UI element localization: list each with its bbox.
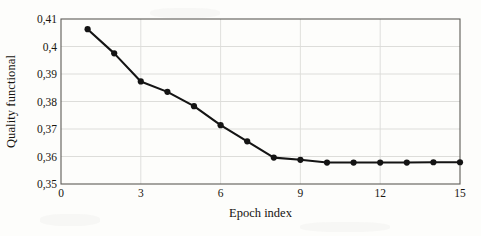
data-point-marker xyxy=(404,159,410,165)
chart-figure: Quality functional 0,350,360,370,380,390… xyxy=(0,0,481,236)
data-point-marker xyxy=(218,122,224,128)
data-point-marker xyxy=(430,159,436,165)
data-point-marker xyxy=(138,78,144,84)
data-point-marker xyxy=(351,159,357,165)
data-point-marker xyxy=(324,159,330,165)
data-point-marker xyxy=(164,89,170,95)
data-point-marker xyxy=(111,50,117,56)
gridlines xyxy=(61,19,460,184)
data-point-marker xyxy=(85,26,91,32)
series-markers xyxy=(85,26,464,166)
series-line xyxy=(88,29,460,162)
plot-area xyxy=(0,0,481,236)
data-point-marker xyxy=(297,157,303,163)
data-point-marker xyxy=(457,159,463,165)
data-point-marker xyxy=(271,155,277,161)
data-point-marker xyxy=(191,103,197,109)
data-point-marker xyxy=(244,138,250,144)
data-point-marker xyxy=(377,159,383,165)
